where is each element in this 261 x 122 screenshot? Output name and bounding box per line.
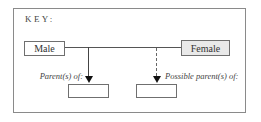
parent-of-label: Parent(s) of: (40, 71, 83, 81)
female-node: Female (181, 40, 230, 56)
arrow-down-icon (85, 76, 93, 83)
female-label: Female (191, 43, 220, 54)
male-label: Male (34, 43, 55, 54)
male-node: Male (24, 41, 65, 56)
key-title: KEY: (25, 14, 55, 24)
arrow-down-icon (153, 76, 161, 83)
couple-connector-line (65, 47, 181, 48)
possible-child-node-placeholder (136, 84, 177, 98)
child-node-placeholder (68, 84, 109, 98)
possible-parent-of-dashed-line (156, 48, 157, 76)
possible-parent-of-label: Possible parent(s) of: (165, 71, 238, 81)
parent-of-solid-line (88, 47, 89, 76)
